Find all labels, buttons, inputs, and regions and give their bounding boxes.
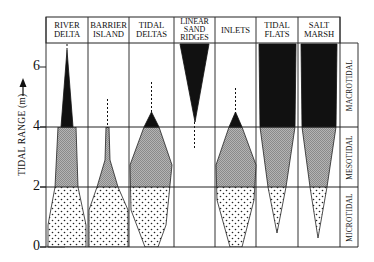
column-header-salt-marsh: SALTMARSH [298,17,340,43]
inlets-shape [216,88,256,247]
header-line: INLETS [221,26,250,35]
y-axis-ticks [40,67,46,247]
y-tick-6: 6 [30,58,40,74]
y-axis-label: TIDAL RANGE (m) [17,94,27,176]
linear-sand-ridges-shape [180,44,209,150]
column-header-river-delta: RIVERDELTA [46,17,88,43]
header-line: MARSH [304,30,334,39]
y-tick-2: 2 [30,178,40,194]
column-header-linear-sand-ridges: LINEARSANDRIDGES [174,17,215,43]
tidal-deltas-shape [130,82,172,247]
header-line: DELTAS [136,30,167,39]
column-header-inlets: INLETS [215,17,256,43]
salt-marsh-shape [301,44,337,238]
barrier-island-shape [89,99,128,247]
river-delta-shape [48,44,86,247]
y-tick-4: 4 [30,118,40,134]
header-line: DELTA [54,30,80,39]
column-header-barrier-island: BARRIERISLAND [88,17,129,43]
tidal-flats-shape [259,44,296,233]
header-line: FLATS [264,30,289,39]
header-line: RIDGES [180,34,209,42]
column-header-tidal-flats: TIDALFLATS [256,17,298,43]
header-line: ISLAND [90,30,127,39]
y-tick-0: 0 [30,238,40,254]
column-header-tidal-deltas: TIDALDELTAS [129,17,174,43]
regime-label-macrotidal: MACROTIDAL [345,46,354,126]
regime-label-microtidal: MICROTIDAL [345,183,354,253]
